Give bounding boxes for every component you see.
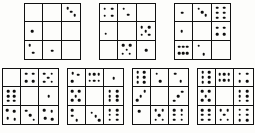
dot-mark (205, 95, 208, 98)
dot-mark (154, 118, 157, 121)
dot-mark (201, 81, 204, 84)
dot-mark (208, 90, 211, 93)
dot-mark (71, 114, 74, 117)
dot-mark (138, 110, 141, 113)
grid-cell-middle-middle (118, 22, 136, 40)
dot-mark (78, 90, 81, 93)
dot-mark (197, 44, 200, 47)
dot-grid-5 (67, 68, 124, 125)
dot-mark (13, 95, 16, 98)
dot-grid-4 (2, 68, 59, 125)
grid-cell-top-left (68, 69, 86, 87)
dot-mark (108, 118, 111, 121)
dot-mark (108, 95, 111, 98)
dot-mark (136, 76, 139, 79)
dot-mark (129, 44, 132, 47)
dot-mark (43, 109, 46, 112)
dot-mark (104, 8, 107, 11)
dot-mark (208, 76, 211, 79)
grid-cell-bottom-right (39, 106, 57, 124)
dot-mark (32, 73, 35, 76)
dot-mark (246, 100, 249, 103)
dot-mark (208, 114, 211, 117)
dot-mark (143, 81, 146, 84)
dot-mark (173, 118, 176, 121)
grid-cell-middle-right (137, 22, 155, 40)
dot-mark (51, 118, 54, 121)
dot-mark (74, 14, 77, 17)
dot-mark (44, 117, 47, 120)
dot-mark (205, 14, 208, 17)
dot-mark (25, 80, 28, 83)
grid-cell-middle-left (3, 87, 21, 105)
dot-mark (25, 109, 28, 112)
dot-mark (219, 118, 222, 121)
dot-mark (198, 7, 201, 10)
dot-mark (122, 53, 125, 56)
dot-mark (227, 79, 230, 82)
dot-mark (223, 26, 226, 29)
dot-mark (88, 73, 91, 76)
dot-mark (116, 90, 119, 93)
dot-mark (7, 95, 10, 98)
dot-mark (112, 77, 115, 80)
grid-cell-top-middle (216, 69, 234, 87)
dot-mark (71, 80, 74, 83)
dot-mark (219, 109, 222, 112)
grid-cell-middle-middle (151, 87, 169, 105)
dot-mark (145, 49, 148, 52)
dot-mark (238, 100, 241, 103)
dot-mark (238, 80, 241, 83)
grid-cell-top-right (234, 69, 252, 87)
dot-mark (173, 109, 176, 112)
grid-cell-bottom-left (68, 106, 86, 124)
grid-cell-middle-left (133, 87, 151, 105)
dot-mark (180, 109, 183, 112)
dot-mark (246, 73, 249, 76)
dot-mark (178, 52, 181, 55)
grid-cell-top-right (62, 4, 80, 22)
dot-mark (218, 73, 221, 76)
dot-mark (50, 72, 53, 75)
dot-mark (181, 91, 184, 94)
dot-mark (6, 109, 9, 112)
grid-cell-bottom-left (3, 106, 21, 124)
dot-mark (104, 14, 107, 17)
dot-mark (77, 74, 80, 77)
dot-mark (223, 79, 226, 82)
dot-mark (140, 34, 143, 37)
dot-mark (108, 114, 111, 117)
grid-cell-top-middle (151, 69, 169, 87)
grid-cell-bottom-left (175, 41, 193, 59)
dot-mark (122, 44, 125, 47)
grid-cell-bottom-middle (21, 106, 39, 124)
dot-mark (32, 51, 35, 54)
dot-mark (143, 76, 146, 79)
dot-mark (97, 79, 100, 82)
dot-mark (208, 99, 211, 102)
grid-cell-middle-middle (43, 22, 61, 40)
grid-cell-bottom-right (169, 106, 187, 124)
dot-mark (90, 111, 93, 114)
dot-mark (140, 95, 143, 98)
grid-cell-middle-left (100, 22, 118, 40)
dot-mark (116, 95, 119, 98)
dot-mark (13, 100, 16, 103)
dot-mark (177, 95, 180, 98)
dot-mark (13, 90, 16, 93)
dot-mark (208, 71, 211, 74)
dot-mark (125, 49, 128, 52)
dot-mark (155, 72, 158, 75)
dot-mark (208, 81, 211, 84)
dot-mark (181, 11, 184, 14)
grid-cell-middle-right (104, 87, 122, 105)
dot-mark (136, 99, 139, 102)
dot-mark (238, 108, 241, 111)
dot-mark (50, 81, 53, 84)
grid-cell-bottom-middle (193, 41, 211, 59)
dot-mark (216, 33, 219, 36)
dot-mark (158, 114, 161, 117)
grid-cell-bottom-right (62, 41, 80, 59)
dot-mark (47, 95, 50, 98)
dot-mark (161, 118, 164, 121)
